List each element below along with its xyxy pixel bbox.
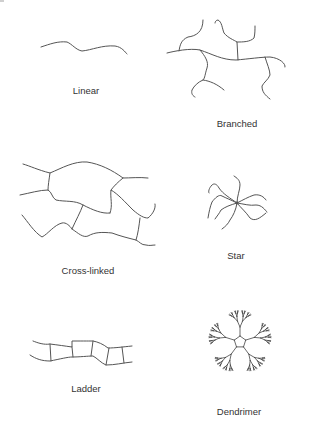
ladder-polymer-figure	[30, 341, 132, 365]
label-dendrimer: Dendrimer	[217, 406, 261, 417]
dendrimer-figure	[209, 311, 271, 371]
label-ladder: Ladder	[71, 383, 101, 394]
star-polymer-figure	[208, 176, 267, 229]
branched-polymer-figure	[167, 20, 285, 99]
polymer-architecture-diagram	[0, 0, 310, 432]
label-linear: Linear	[73, 85, 99, 96]
label-branched: Branched	[217, 118, 258, 129]
cross-linked-polymer-figure	[20, 162, 155, 246]
linear-chain-figure	[41, 42, 127, 54]
label-star: Star	[227, 250, 244, 261]
label-cross-linked: Cross-linked	[62, 265, 115, 276]
